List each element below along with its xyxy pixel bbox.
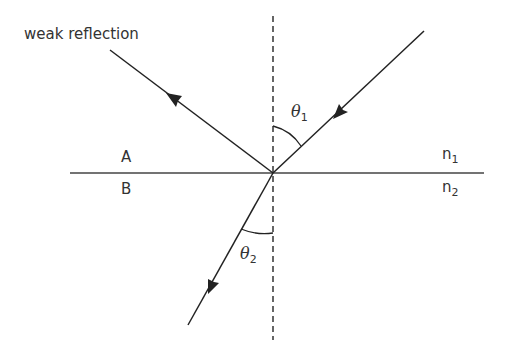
n2-label: n2 [442, 180, 459, 195]
refracted-ray [188, 173, 273, 325]
refraction-diagram [0, 0, 514, 351]
refracted-arrow-icon [208, 279, 219, 294]
theta1-label: θ1 [291, 104, 308, 120]
n1-label: n1 [442, 147, 459, 162]
theta2-label: θ2 [240, 246, 257, 262]
theta2-symbol: θ [240, 244, 250, 263]
theta1-symbol: θ [291, 102, 301, 121]
n1-subscript: 1 [452, 153, 459, 166]
theta1-arc [273, 126, 301, 146]
theta2-subscript: 2 [250, 253, 257, 266]
medium-b-label: B [121, 182, 131, 197]
theta1-subscript: 1 [301, 111, 308, 124]
incident-arrow-icon [333, 104, 348, 119]
n2-base: n [442, 178, 452, 196]
reflection-label: weak reflection [24, 27, 139, 42]
medium-a-label: A [121, 150, 131, 165]
reflected-ray [110, 50, 273, 173]
reflected-arrow-icon [166, 93, 182, 107]
n1-base: n [442, 145, 452, 163]
n2-subscript: 2 [452, 186, 459, 199]
theta2-arc [241, 229, 273, 234]
